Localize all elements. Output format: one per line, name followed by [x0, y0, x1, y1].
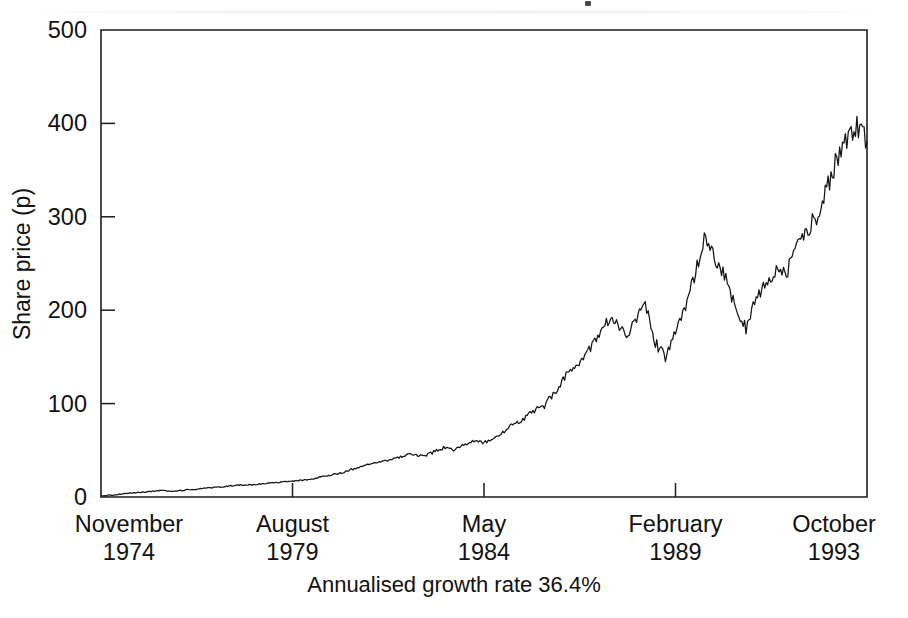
share-price-chart-svg: Share price (p) 5004003002001000 Novembe…	[0, 0, 908, 618]
x-tick-month-1974: November	[75, 511, 184, 537]
chart-caption: Annualised growth rate 36.4%	[307, 572, 601, 597]
x-tick-year-1993: 1993	[808, 539, 860, 565]
y-axis-title: Share price (p)	[9, 188, 35, 340]
x-tick-month-1993: October	[792, 511, 876, 537]
scan-artifact-dot	[585, 1, 591, 6]
y-tick-label-300: 300	[48, 204, 87, 230]
x-axis-ticks	[293, 483, 676, 497]
y-tick-label-500: 500	[48, 17, 87, 43]
x-tick-year-1984: 1984	[458, 539, 510, 565]
x-tick-month-1984: May	[462, 511, 507, 537]
y-tick-label-100: 100	[48, 391, 87, 417]
x-tick-year-1974: 1974	[103, 539, 155, 565]
x-tick-month-1979: August	[256, 511, 330, 537]
y-axis-ticks	[101, 123, 115, 403]
y-tick-label-400: 400	[48, 110, 87, 136]
x-axis-tick-labels: November1974August1979May1984February198…	[75, 511, 876, 565]
plot-frame	[101, 30, 867, 497]
x-tick-year-1979: 1979	[266, 539, 318, 565]
scan-artifact-edge	[0, 11, 908, 13]
share-price-line	[101, 116, 867, 496]
x-tick-month-1989: February	[628, 511, 722, 537]
x-tick-year-1989: 1989	[649, 539, 701, 565]
y-axis-tick-labels: 5004003002001000	[48, 17, 87, 510]
chart-figure: Share price (p) 5004003002001000 Novembe…	[0, 0, 908, 618]
y-tick-label-200: 200	[48, 297, 87, 323]
y-tick-label-0: 0	[74, 484, 87, 510]
